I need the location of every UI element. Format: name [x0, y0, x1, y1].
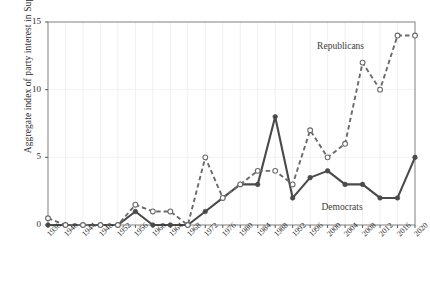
data-point: [378, 87, 383, 92]
data-point: [378, 196, 383, 201]
data-point: [238, 182, 243, 187]
data-point: [220, 196, 225, 201]
data-point: [150, 209, 155, 214]
y-tick-label: 15: [19, 16, 41, 26]
axis-lines: [48, 22, 415, 225]
chart-container: Aggregate index of party interest in Sup…: [0, 0, 430, 295]
data-point: [360, 182, 365, 187]
data-point: [273, 168, 278, 173]
data-point: [343, 182, 348, 187]
y-tick-label: 5: [19, 151, 41, 161]
data-point: [413, 33, 418, 38]
data-point: [325, 155, 330, 160]
data-point: [343, 141, 348, 146]
data-point: [203, 209, 208, 214]
data-point: [325, 169, 330, 174]
chart-plot-area: [0, 0, 430, 295]
data-point: [360, 60, 365, 65]
data-point: [395, 33, 400, 38]
gridlines: [48, 22, 415, 225]
data-point: [168, 209, 173, 214]
data-point: [133, 202, 138, 207]
y-tick-label: 0: [19, 219, 41, 229]
data-point: [290, 196, 295, 201]
data-point: [273, 114, 278, 119]
y-tick-label: 10: [19, 84, 41, 94]
series-annotation-democrats: Democrats: [321, 202, 362, 212]
data-point: [308, 175, 313, 180]
data-point: [413, 155, 418, 160]
data-point: [290, 182, 295, 187]
series-line-republicans: [48, 36, 415, 225]
data-series-layer: [46, 33, 418, 227]
data-point: [133, 209, 138, 214]
data-point: [203, 155, 208, 160]
data-point: [46, 216, 51, 221]
series-annotation-republicans: Republicans: [317, 41, 364, 51]
data-point: [255, 182, 260, 187]
data-point: [255, 168, 260, 173]
data-point: [395, 196, 400, 201]
data-point: [308, 128, 313, 133]
